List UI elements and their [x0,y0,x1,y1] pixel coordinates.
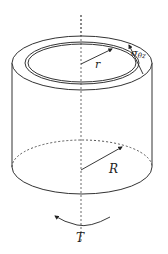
inner-radius-label: r [95,59,100,70]
outer-radius-label: R [109,163,118,175]
torque-arrow [55,216,110,226]
torque-label: T [76,232,84,244]
hollow-cylinder-torsion-diagram [0,0,168,254]
shear-stress-subscript: θz [138,52,146,60]
shear-stress-label: σθz [131,48,146,60]
shear-stress-symbol: σ [131,47,138,58]
bottom-back-arc [12,140,152,167]
bottom-front-arc [12,167,152,194]
